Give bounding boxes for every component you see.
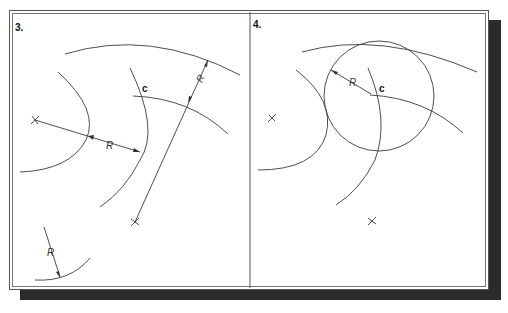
offset-arc-outer [370, 95, 463, 133]
intersection-label-c: c [142, 83, 148, 94]
radius-label: R [106, 140, 113, 151]
given-arc-outer [302, 44, 477, 72]
step-label-3: 3. [15, 22, 24, 33]
radius-label: R [349, 77, 356, 88]
radius-sample-arc [35, 258, 90, 280]
offset-arc-inner [100, 68, 148, 207]
arrowhead-icon [331, 70, 338, 75]
construction-drawing: 3. R c R R 4. [0, 0, 508, 313]
radius-dimension-line [35, 120, 140, 152]
arrowhead-icon [133, 148, 140, 152]
arrowhead-icon [56, 271, 60, 278]
arrowhead-icon [88, 135, 94, 140]
intersection-label-c: c [379, 83, 385, 94]
panel-3: 3. R c R R [15, 22, 240, 280]
given-arc-outer [65, 45, 240, 75]
offset-arc-inner [336, 68, 381, 205]
given-arc-inner [20, 72, 90, 172]
panel-4: 4. R c [253, 19, 477, 225]
given-arc-inner [258, 70, 328, 170]
arrowhead-icon [188, 96, 192, 103]
center-cross-icon [268, 114, 276, 122]
center-cross-icon [368, 217, 376, 225]
center-cross-icon [131, 218, 139, 226]
offset-arc-outer [133, 96, 228, 134]
arrowhead-icon [204, 60, 208, 67]
radius-label: R [47, 247, 54, 258]
radius-label: R [194, 73, 207, 84]
step-label-4: 4. [253, 19, 262, 30]
